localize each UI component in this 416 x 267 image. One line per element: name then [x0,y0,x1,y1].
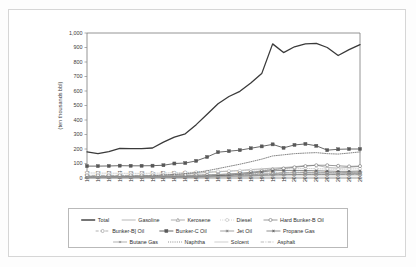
legend-item[interactable]: Bunker-B] Oil [96,228,145,234]
legend-swatch-marker [101,229,104,232]
marker-square-filled [140,164,143,167]
series-marker [293,143,296,146]
series-bunker-c-oil [85,142,361,167]
y-tick-label: 800 [74,59,83,65]
marker-square-filled [151,164,154,167]
marker-square-filled [271,143,274,146]
legend-swatch-marker [165,229,168,232]
legend-item[interactable]: Bunker-C Oil [159,228,206,234]
series-marker [227,150,230,153]
marker-circle-open [337,164,340,167]
axes-frame [87,33,360,178]
legend-item[interactable]: Hard Bunker-B Oil [264,217,324,223]
marker-circle-open [348,165,351,168]
marker-circle-open [282,167,285,170]
series-marker [358,165,361,168]
marker-circle-open [304,165,307,168]
legend-swatch-marker [226,230,229,233]
series-marker [282,146,285,149]
marker-square-filled [249,147,252,150]
series-marker [293,166,296,169]
legend-label: Bunker-C Oil [176,228,207,234]
y-tick-label: 300 [74,131,83,137]
legend-label: Butane Gas [130,239,159,245]
series-marker [315,164,318,167]
marker-circle-open [226,218,229,221]
marker-square-filled [216,151,219,154]
marker-square-filled [184,162,187,165]
legend-item[interactable]: Butane Gas [113,239,158,245]
series-marker [238,149,241,152]
series-marker [282,167,285,170]
marker-square-filled [206,155,209,158]
legend-item[interactable]: Jet Oil [220,228,252,234]
chart-page: 01002003004005006007008009001,000(ten th… [0,0,416,267]
legend-label: Gasoline [138,217,159,223]
marker-circle-open [216,170,219,173]
legend-label: Bunker-B] Oil [112,228,144,234]
marker-circle-open [315,164,318,167]
marker-star [226,230,229,233]
marker-square-filled [173,162,176,165]
marker-square-filled [304,142,307,145]
legend-item[interactable]: Gasoline [122,217,160,223]
marker-square-filled [118,164,121,167]
y-tick-label: 600 [74,88,83,94]
series-marker [249,147,252,150]
series-marker [129,164,132,167]
series-marker [358,147,361,150]
marker-square-filled [195,159,198,162]
legend-label: Jet Oil [237,228,252,234]
marker-square-filled [293,143,296,146]
marker-triangle-open [176,218,179,221]
marker-circle-open [326,167,329,170]
series-marker [216,170,219,173]
series-marker [271,143,274,146]
series-marker [173,162,176,165]
series-total [87,43,360,153]
legend-swatch-marker [269,218,272,221]
series-marker [151,164,154,167]
series-marker [206,155,209,158]
series-marker [304,142,307,145]
legend-item[interactable]: Solcent [214,239,249,245]
marker-square-filled [348,147,351,150]
legend-label: Kerosene [187,217,210,223]
marker-circle-open [337,168,340,171]
legend-item[interactable]: Asphalt [261,239,296,245]
y-tick-label: 900 [74,44,83,50]
series-line [87,144,360,166]
y-axis-title: (ten thousands bbl) [57,81,63,129]
legend-item[interactable]: Propane Gas [266,228,315,234]
series-marker [337,168,340,171]
legend-item[interactable]: Diesel [220,217,251,223]
series-marker [162,164,165,167]
series-marker [260,145,263,148]
legend-label: Hard Bunker-B Oil [280,217,324,223]
marker-circle-open [293,166,296,169]
marker-star [119,241,122,243]
series-marker [326,149,329,152]
legend-item[interactable]: Total [81,217,109,223]
series-marker [326,167,329,170]
series-layer [85,43,361,178]
legend-item[interactable]: Naphtha [168,239,205,245]
legend-item[interactable]: Kerosene [171,217,211,223]
marker-square-filled [165,229,168,232]
marker-square-filled [129,164,132,167]
series-marker [315,144,318,147]
legend-swatch-marker [119,241,122,243]
series-marker [118,164,121,167]
legend-swatch-marker [226,218,229,221]
marker-square-filled [282,146,285,149]
marker-square-filled [85,165,88,168]
legend-label: Asphalt [277,239,295,245]
y-tick-label: 500 [74,102,83,108]
series-marker [304,165,307,168]
y-tick-label: 100 [74,160,83,166]
series-marker [348,147,351,150]
series-marker [107,164,110,167]
series-marker [337,164,340,167]
marker-square-filled [337,148,340,151]
legend-label: Solcent [231,239,249,245]
